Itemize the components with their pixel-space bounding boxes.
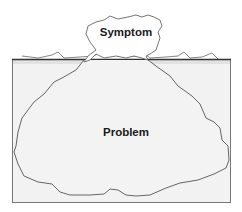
symptom-label: Symptom — [100, 26, 152, 38]
problem-label: Problem — [103, 126, 149, 138]
iceberg-diagram: Symptom Problem — [0, 0, 242, 212]
